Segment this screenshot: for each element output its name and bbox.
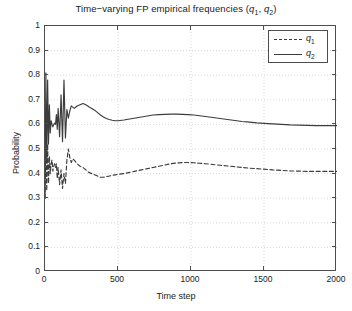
y-tick-label: 0: [0, 266, 40, 276]
legend-label-q2: q2: [306, 48, 315, 60]
y-tick-label: 0.2: [0, 217, 40, 227]
y-tick-mark: [332, 148, 336, 149]
y-tick-label: 0.5: [0, 143, 40, 153]
legend-entry-q2: q2: [269, 47, 329, 62]
x-tick-mark: [263, 266, 264, 271]
x-tick-label: 1000: [181, 274, 200, 284]
y-tick-mark: [332, 197, 336, 198]
legend-label-q1: q1: [306, 33, 315, 45]
y-tick-mark: [332, 222, 336, 223]
chart-title-close: ): [273, 3, 276, 14]
x-tick-label: 2000: [327, 274, 346, 284]
y-tick-label: 0.8: [0, 69, 40, 79]
y-tick-mark: [44, 197, 48, 198]
x-tick-label: 1500: [254, 274, 273, 284]
y-tick-mark: [332, 173, 336, 174]
x-tick-label: 0: [42, 274, 47, 284]
y-tick-label: 1: [0, 20, 40, 30]
x-tick-mark: [117, 266, 118, 271]
y-tick-mark: [332, 246, 336, 247]
y-tick-mark: [44, 50, 48, 51]
y-tick-label: 0.6: [0, 118, 40, 128]
y-tick-mark: [332, 99, 336, 100]
legend-line-solid: [274, 54, 302, 55]
y-tick-mark: [44, 99, 48, 100]
x-tick-mark: [117, 25, 118, 30]
y-tick-mark: [44, 74, 48, 75]
y-tick-label: 0.9: [0, 45, 40, 55]
y-tick-label: 0.4: [0, 168, 40, 178]
y-tick-mark: [44, 148, 48, 149]
y-tick-label: 0.3: [0, 192, 40, 202]
y-tick-label: 0.7: [0, 94, 40, 104]
x-tick-mark: [190, 25, 191, 30]
legend-entry-q1: q1: [269, 32, 329, 47]
x-tick-mark: [190, 266, 191, 271]
y-tick-label: 0.1: [0, 241, 40, 251]
y-tick-mark: [44, 222, 48, 223]
x-tick-mark: [263, 25, 264, 30]
y-tick-mark: [44, 173, 48, 174]
x-tick-label: 500: [110, 274, 124, 284]
y-tick-mark: [332, 123, 336, 124]
chart-title-main: Time−varying FP empirical frequencies (: [75, 3, 249, 14]
legend: q1 q2: [268, 30, 328, 63]
legend-line-dashed: [274, 39, 302, 40]
chart-title: Time−varying FP empirical frequencies (q…: [0, 3, 352, 16]
x-axis-label: Time step: [0, 291, 352, 301]
figure: Time−varying FP empirical frequencies (q…: [0, 0, 352, 311]
y-tick-mark: [44, 123, 48, 124]
y-tick-mark: [332, 74, 336, 75]
y-tick-mark: [44, 246, 48, 247]
y-tick-mark: [332, 50, 336, 51]
